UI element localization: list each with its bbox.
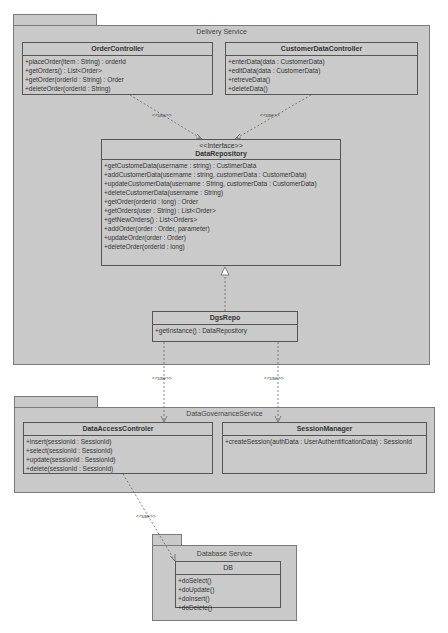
use-label: <<use>> [264,375,284,381]
use-label: <<use>> [136,513,156,519]
use-label: <<use>> [152,375,172,381]
use-label: <<use>> [260,112,280,118]
arrowhead-icon [196,134,202,139]
arrowhead-icon [235,134,241,139]
realization-triangle-icon [221,267,229,275]
use-label: <<use>> [152,112,172,118]
relationship-lines [0,0,448,633]
